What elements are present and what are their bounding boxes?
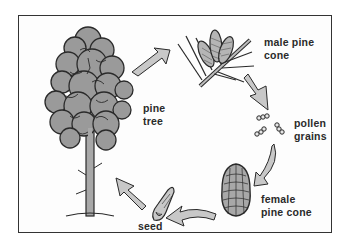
- label-male-pine-cone-line1: male pine: [264, 36, 314, 49]
- label-pollen-grains-line1: pollen: [294, 117, 327, 130]
- female-pine-cone-illustration: [222, 164, 250, 216]
- label-pine-tree-line1: pine: [143, 102, 165, 115]
- label-pollen-grains-line2: grains: [294, 130, 327, 143]
- label-pollen-grains: pollen grains: [294, 117, 327, 143]
- label-seed: seed: [138, 220, 163, 233]
- label-seed-line1: seed: [138, 220, 163, 233]
- label-male-pine-cone-line2: cone: [264, 49, 314, 62]
- label-pine-tree-line2: tree: [143, 115, 165, 128]
- arrow-tree-to-male-cone: [132, 48, 170, 76]
- arrow-male-cone-to-pollen: [244, 74, 268, 110]
- label-pine-tree: pine tree: [143, 102, 165, 128]
- label-male-pine-cone: male pine cone: [264, 36, 314, 62]
- arrow-pollen-to-female-cone: [254, 144, 276, 186]
- label-female-pine-cone-line1: female: [261, 193, 312, 206]
- pollen-grains-illustration: [255, 114, 284, 136]
- label-female-pine-cone: female pine cone: [261, 193, 312, 219]
- male-pine-cone-illustration: [178, 30, 254, 86]
- arrow-female-cone-to-seed: [166, 206, 216, 226]
- arrow-seed-to-tree: [116, 178, 146, 210]
- label-female-pine-cone-line2: pine cone: [261, 206, 312, 219]
